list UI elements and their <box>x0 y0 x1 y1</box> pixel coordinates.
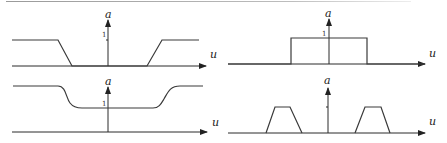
response-curve <box>12 40 199 66</box>
filter-response-diagram: a u 1 a u 1 a u 1 a u <box>0 0 447 143</box>
y-axis-label: a <box>325 7 332 20</box>
response-curve <box>228 38 425 64</box>
x-axis-label: u <box>210 48 217 61</box>
right-lobe-curve <box>355 107 390 133</box>
y-axis-label: a <box>324 74 331 87</box>
x-axis-label: u <box>212 116 219 129</box>
unit-tick-label: 1 <box>322 30 326 38</box>
unit-tick-label: 1 <box>102 31 106 39</box>
panel-top-right: a u 1 <box>228 7 436 64</box>
left-lobe-curve <box>266 107 302 133</box>
panel-top-left: a u 1 <box>12 8 217 66</box>
x-axis-label: u <box>429 47 436 60</box>
panel-bottom-right: a u <box>228 74 436 133</box>
unit-tick-label: 1 <box>102 100 106 108</box>
x-axis-label: u <box>429 115 436 128</box>
y-axis-label: a <box>105 8 112 21</box>
panel-bottom-left: a u 1 <box>12 75 219 132</box>
y-axis-label: a <box>105 75 112 88</box>
